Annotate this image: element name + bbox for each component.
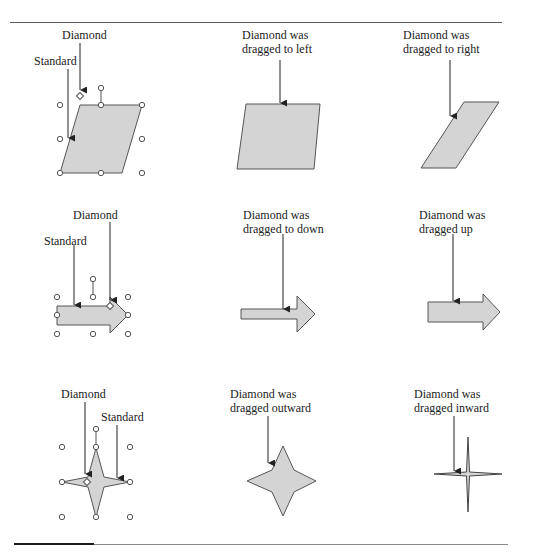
parallelogram-shape — [421, 102, 499, 168]
four-point-star-shape — [247, 446, 316, 516]
diamond-handle-icon — [76, 92, 83, 99]
panel3-parallelogram-right — [421, 60, 499, 168]
panel8-star-outward — [247, 416, 316, 516]
four-point-star-shape — [62, 448, 130, 517]
parallelogram-shape — [237, 104, 320, 169]
block-arrow-shape — [428, 294, 500, 330]
four-point-star-shape — [434, 437, 502, 512]
rotate-handle-icon — [98, 85, 103, 90]
panel6-arrow-up — [428, 234, 500, 330]
block-arrow-shape — [241, 296, 315, 332]
panel4-arrow-standard — [54, 222, 130, 337]
block-arrow-shape — [57, 297, 128, 333]
panel9-star-inward — [434, 416, 502, 512]
panel7-star-standard — [59, 402, 132, 520]
panel5-arrow-down — [241, 234, 315, 332]
panel2-parallelogram-left — [237, 60, 320, 169]
rotate-handle-icon — [93, 426, 98, 431]
bottom-rule-accent — [14, 543, 94, 545]
panel1-parallelogram-standard — [57, 43, 144, 176]
parallelogram-shape — [60, 105, 142, 173]
rotate-handle-icon — [90, 276, 95, 281]
